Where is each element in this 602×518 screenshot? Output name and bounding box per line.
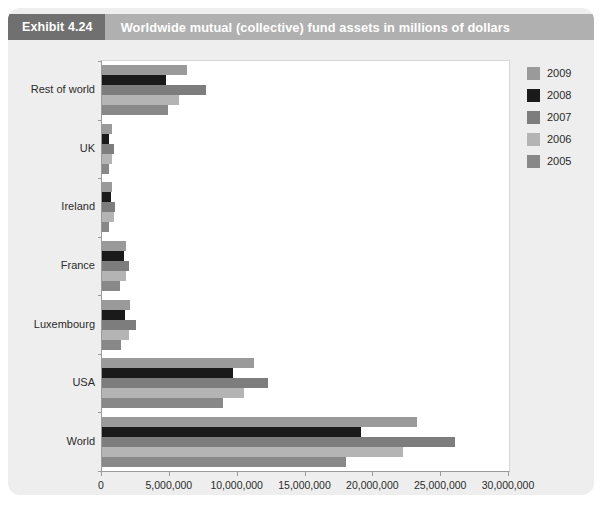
bar-group [102, 417, 509, 467]
x-axis-label: 20,000,000 [346, 479, 399, 491]
x-axis-tick [101, 471, 102, 476]
x-axis-tick [372, 471, 373, 476]
exhibit-card: Exhibit 4.24 Worldwide mutual (collectiv… [8, 8, 594, 495]
bar[interactable] [102, 447, 403, 457]
y-axis-label: France [61, 259, 95, 271]
y-axis-category-labels: Rest of worldUKIrelandFranceLuxembourgUS… [8, 60, 95, 470]
bar[interactable] [102, 182, 112, 192]
y-axis-label: Rest of world [31, 83, 95, 95]
x-axis-label: 10,000,000 [210, 479, 263, 491]
legend-label: 2006 [540, 133, 571, 145]
y-axis-tick [98, 295, 102, 296]
legend-item[interactable]: 2008 [527, 84, 593, 106]
bar[interactable] [102, 398, 223, 408]
x-axis-tick [440, 471, 441, 476]
bar[interactable] [102, 388, 244, 398]
bar[interactable] [102, 192, 111, 202]
legend-item[interactable]: 2005 [527, 150, 593, 172]
bar[interactable] [102, 95, 179, 105]
bar-group [102, 358, 509, 408]
bar-group [102, 182, 509, 232]
y-axis-tick [98, 354, 102, 355]
bar[interactable] [102, 124, 112, 134]
exhibit-title: Worldwide mutual (collective) fund asset… [105, 20, 510, 35]
bar[interactable] [102, 368, 233, 378]
bar[interactable] [102, 427, 361, 437]
x-axis-tick [508, 471, 509, 476]
bar[interactable] [102, 164, 109, 174]
x-axis-label: 5,000,000 [145, 479, 192, 491]
bar[interactable] [102, 281, 120, 291]
y-axis-label: Luxembourg [34, 318, 95, 330]
y-axis-tick [98, 178, 102, 179]
bar[interactable] [102, 241, 126, 251]
bar[interactable] [102, 378, 268, 388]
legend-label: 2005 [540, 155, 571, 167]
bar[interactable] [102, 65, 187, 75]
y-axis-tick [98, 61, 102, 62]
x-axis-label: 30,000,000 [482, 479, 535, 491]
legend-swatch-icon [527, 133, 540, 146]
x-axis-tick [169, 471, 170, 476]
bar[interactable] [102, 134, 109, 144]
bar[interactable] [102, 251, 124, 261]
legend-item[interactable]: 2009 [527, 62, 593, 84]
y-axis-label: Ireland [61, 200, 95, 212]
bar-group [102, 300, 509, 350]
y-axis-label: USA [72, 376, 95, 388]
plot-area [101, 60, 510, 472]
bar[interactable] [102, 320, 136, 330]
bar[interactable] [102, 75, 166, 85]
y-axis-label: UK [80, 142, 95, 154]
legend-swatch-icon [527, 155, 540, 168]
legend-item[interactable]: 2007 [527, 106, 593, 128]
legend-item[interactable]: 2006 [527, 128, 593, 150]
x-axis-label: 25,000,000 [414, 479, 467, 491]
bar[interactable] [102, 85, 206, 95]
bar-group [102, 241, 509, 291]
y-axis-tick [98, 412, 102, 413]
bar[interactable] [102, 144, 114, 154]
bar[interactable] [102, 271, 126, 281]
bar[interactable] [102, 457, 346, 467]
bar[interactable] [102, 358, 254, 368]
bar-chart: Rest of worldUKIrelandFranceLuxembourgUS… [8, 40, 594, 495]
bar[interactable] [102, 417, 417, 427]
legend-label: 2008 [540, 89, 571, 101]
bar[interactable] [102, 154, 112, 164]
bar[interactable] [102, 340, 121, 350]
bar[interactable] [102, 330, 129, 340]
y-axis-label: World [66, 435, 95, 447]
bar[interactable] [102, 261, 129, 271]
bar-group [102, 124, 509, 174]
bar[interactable] [102, 105, 168, 115]
legend-swatch-icon [527, 111, 540, 124]
exhibit-header: Exhibit 4.24 Worldwide mutual (collectiv… [8, 14, 594, 40]
x-axis-label: 15,000,000 [278, 479, 331, 491]
exhibit-number-badge: Exhibit 4.24 [8, 14, 105, 40]
y-axis-tick [98, 120, 102, 121]
legend-label: 2007 [540, 111, 571, 123]
x-axis-tick [237, 471, 238, 476]
bar[interactable] [102, 300, 130, 310]
y-axis-tick [98, 237, 102, 238]
bar[interactable] [102, 437, 455, 447]
bar-group [102, 65, 509, 115]
chart-legend: 20092008200720062005 [527, 62, 593, 172]
bar[interactable] [102, 222, 109, 232]
bar[interactable] [102, 212, 114, 222]
bar[interactable] [102, 310, 125, 320]
x-axis-label: 0 [98, 479, 104, 491]
legend-swatch-icon [527, 89, 540, 102]
x-axis-tick [305, 471, 306, 476]
legend-label: 2009 [540, 67, 571, 79]
legend-swatch-icon [527, 67, 540, 80]
bar[interactable] [102, 202, 115, 212]
